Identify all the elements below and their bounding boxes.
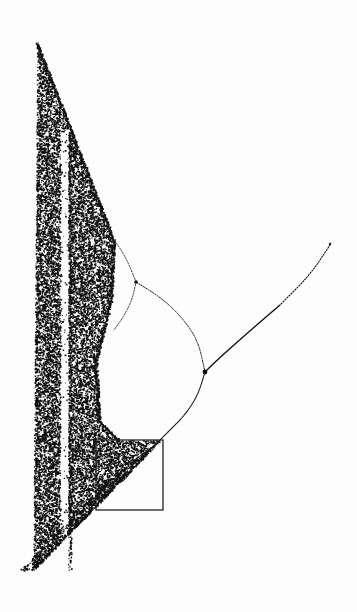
period-doubling-branches <box>104 232 331 484</box>
bifurcation-diagram <box>0 0 357 612</box>
bifurcation-plot <box>0 0 357 612</box>
chaotic-region <box>21 42 161 571</box>
